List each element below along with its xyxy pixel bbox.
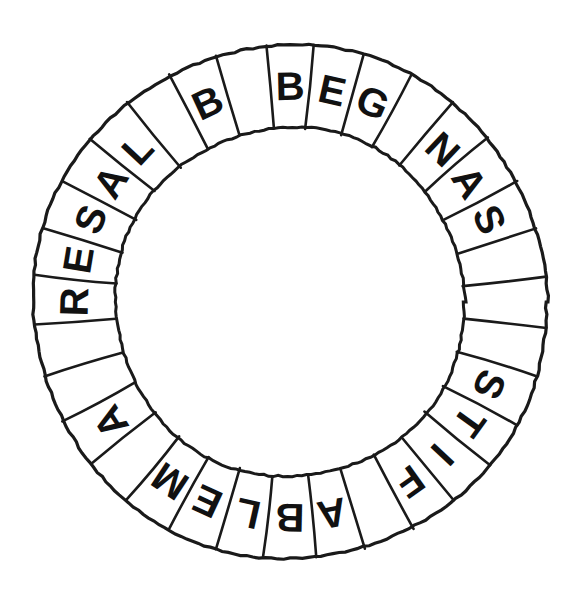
- ring-inner-circle: [115, 127, 466, 477]
- ring-cell-letter: B: [275, 496, 305, 541]
- ring-cell-letter: R: [52, 287, 97, 317]
- ring-cell-letter: B: [275, 64, 305, 109]
- figure-canvas: BEGNASSTIFABLEMARESALB: [0, 0, 583, 606]
- ring-inner-boundary: [115, 127, 466, 477]
- letter-ring-diagram: BEGNASSTIFABLEMARESALB: [0, 0, 583, 606]
